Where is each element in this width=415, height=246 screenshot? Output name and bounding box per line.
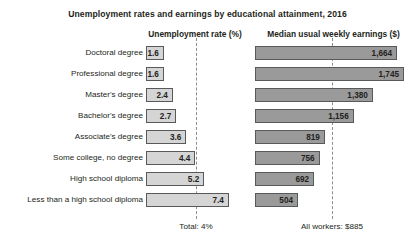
row-label-0: Doctoral degree <box>0 47 143 58</box>
chart-rows: Doctoral degree1.61,664Professional degr… <box>0 44 415 212</box>
chart-row: High school diploma5.2692 <box>0 170 415 191</box>
bar-value-unemployment-1: 1.6 <box>148 70 163 79</box>
bar-value-unemployment-2: 2.4 <box>156 91 171 100</box>
bar-unemployment-1: 1.6 <box>146 67 164 81</box>
bar-earnings-1: 1,745 <box>255 67 404 81</box>
bar-value-earnings-4: 819 <box>306 133 324 142</box>
row-label-1: Professional degree <box>0 68 143 79</box>
bar-value-earnings-0: 1,664 <box>372 49 397 58</box>
bar-value-unemployment-3: 2.7 <box>160 112 175 121</box>
chart-row: Doctoral degree1.61,664 <box>0 44 415 65</box>
row-label-2: Master's degree <box>0 89 143 100</box>
bar-earnings-3: 1,156 <box>255 109 354 123</box>
bar-value-earnings-3: 1,156 <box>328 112 353 121</box>
bar-unemployment-7: 7.4 <box>146 193 229 207</box>
chart-row: Associate's degree3.6819 <box>0 128 415 149</box>
chart-row: Some college, no degree4.4756 <box>0 149 415 170</box>
bar-value-earnings-2: 1,380 <box>347 91 372 100</box>
bar-unemployment-6: 5.2 <box>146 172 204 186</box>
bar-value-earnings-6: 692 <box>295 175 313 184</box>
chart-row: Master's degree2.41,380 <box>0 86 415 107</box>
bar-unemployment-3: 2.7 <box>146 109 176 123</box>
bar-earnings-7: 504 <box>255 193 298 207</box>
chart-container: Unemployment rates and earnings by educa… <box>0 0 415 246</box>
row-label-5: Some college, no degree <box>0 152 143 163</box>
row-label-3: Bachelor's degree <box>0 110 143 121</box>
row-label-4: Associate's degree <box>0 131 143 142</box>
footnote-total-unemployment: Total: 4% <box>146 222 246 231</box>
bar-value-earnings-7: 504 <box>279 196 297 205</box>
bar-earnings-2: 1,380 <box>255 88 373 102</box>
bar-unemployment-4: 3.6 <box>146 130 186 144</box>
row-label-6: High school diploma <box>0 173 143 184</box>
chart-row: Less than a high school diploma7.4504 <box>0 191 415 212</box>
bar-value-unemployment-0: 1.6 <box>148 49 163 58</box>
chart-row: Bachelor's degree2.71,156 <box>0 107 415 128</box>
bar-unemployment-2: 2.4 <box>146 88 173 102</box>
bar-earnings-4: 819 <box>255 130 325 144</box>
bar-value-earnings-1: 1,745 <box>379 70 404 79</box>
bar-unemployment-0: 1.6 <box>146 46 164 60</box>
chart-title: Unemployment rates and earnings by educa… <box>0 9 415 19</box>
bar-value-unemployment-5: 4.4 <box>179 154 194 163</box>
footnote-all-workers-earnings: All workers: $885 <box>262 222 402 231</box>
bar-value-unemployment-7: 7.4 <box>212 196 227 205</box>
bar-value-unemployment-6: 5.2 <box>188 175 203 184</box>
column-header-earnings: Median usual weekly earnings ($) <box>252 29 415 39</box>
bar-value-earnings-5: 756 <box>301 154 319 163</box>
bar-value-unemployment-4: 3.6 <box>170 133 185 142</box>
row-label-7: Less than a high school diploma <box>0 194 143 205</box>
bar-earnings-0: 1,664 <box>255 46 397 60</box>
column-header-unemployment: Unemployment rate (%) <box>140 29 250 39</box>
bar-unemployment-5: 4.4 <box>146 151 195 165</box>
bar-earnings-5: 756 <box>255 151 320 165</box>
chart-row: Professional degree1.61,745 <box>0 65 415 86</box>
bar-earnings-6: 692 <box>255 172 314 186</box>
